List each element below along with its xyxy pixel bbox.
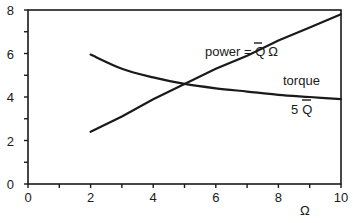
- y-tick-label: 4: [7, 90, 14, 105]
- x-tick-label: 8: [275, 190, 282, 205]
- y-tick-label: 2: [7, 134, 14, 149]
- y-tick-label: 8: [7, 3, 14, 18]
- x-tick-label: 6: [212, 190, 219, 205]
- x-tick-label: 2: [87, 190, 94, 205]
- y-tick-label: 6: [7, 47, 14, 62]
- x-tick-label: 4: [150, 190, 157, 205]
- svg-text:torque: torque: [283, 73, 320, 88]
- svg-text:5Q: 5Q: [291, 102, 312, 117]
- x-tick-label: 10: [334, 190, 348, 205]
- x-tick-label: 0: [24, 190, 31, 205]
- chart: 024681002468 power = QΩ torque 5Q Ω: [0, 0, 353, 223]
- x-axis-label: Ω: [300, 203, 310, 218]
- y-tick-label: 0: [7, 177, 14, 192]
